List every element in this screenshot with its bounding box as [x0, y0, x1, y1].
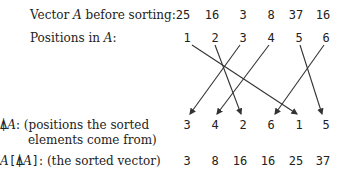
arrow-pos2 — [215, 45, 241, 114]
sorted-cell: 8 — [205, 154, 225, 168]
sorted-cell: 25 — [286, 154, 306, 168]
grade-cell: 2 — [233, 118, 253, 132]
arrow-pos3 — [190, 45, 240, 114]
grade-cell: 5 — [316, 118, 336, 132]
sorted-cell: 3 — [177, 154, 197, 168]
arrow-pos1 — [192, 45, 297, 114]
arrow-pos4 — [217, 45, 269, 114]
sorted-cell: 37 — [313, 154, 333, 168]
grade-cell: 4 — [205, 118, 225, 132]
grade-cell: 3 — [177, 118, 197, 132]
arrow-pos6 — [275, 45, 324, 114]
sorted-cell: 16 — [230, 154, 250, 168]
grade-cell: 6 — [261, 118, 281, 132]
sorted-cell: 16 — [258, 154, 278, 168]
arrow-pos5 — [300, 45, 322, 114]
permutation-arrows — [0, 0, 352, 175]
grade-cell: 1 — [289, 118, 309, 132]
